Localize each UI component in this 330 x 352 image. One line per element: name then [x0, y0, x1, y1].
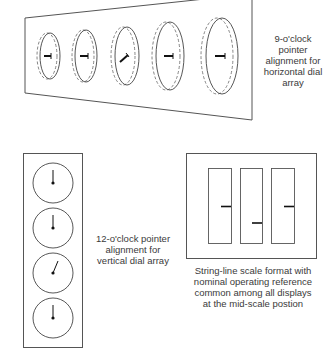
caption-line: horizontal dial [256, 66, 330, 77]
horizontal-dial-3-deviant [111, 27, 139, 85]
horizontal-dial-1 [37, 33, 60, 79]
caption-line: pointer [256, 44, 330, 55]
string-line-caption: String-line scale format with nominal op… [183, 265, 323, 309]
caption-line: array [256, 77, 330, 88]
caption-line: nominal operating reference [183, 276, 323, 287]
caption-line: common among all displays [183, 287, 323, 298]
caption-line: vertical dial array [83, 255, 183, 266]
horizontal-dial-2 [72, 30, 97, 82]
vertical-dial-2 [33, 208, 73, 248]
caption-line: 9-o'clock [256, 33, 330, 44]
caption-line: String-line scale format with [183, 265, 323, 276]
vertical-dial-1 [33, 163, 73, 203]
horizontal-dial-panel [25, 0, 252, 120]
horizontal-dial-5 [201, 18, 238, 94]
string-line-column-1 [209, 169, 232, 244]
caption-line: 12-o'clock pointer [83, 233, 183, 244]
vertical-dial-4 [33, 298, 73, 338]
pointer-icon [120, 55, 128, 62]
horizontal-panel-caption: 9-o'clock pointer alignment for horizont… [256, 33, 330, 88]
caption-line: alignment for [83, 244, 183, 255]
string-line-column-2-deviant [241, 169, 263, 244]
pointer-icon [53, 261, 58, 273]
vertical-dial-panel [24, 154, 83, 348]
vertical-dial-3-deviant [33, 253, 73, 293]
horizontal-dial-4 [152, 22, 184, 90]
caption-line: at the mid-scale postion [183, 298, 323, 309]
string-line-column-3 [272, 169, 295, 244]
vertical-panel-caption: 12-o'clock pointer alignment for vertica… [83, 233, 183, 266]
string-line-panel [187, 154, 317, 259]
caption-line: alignment for [256, 55, 330, 66]
